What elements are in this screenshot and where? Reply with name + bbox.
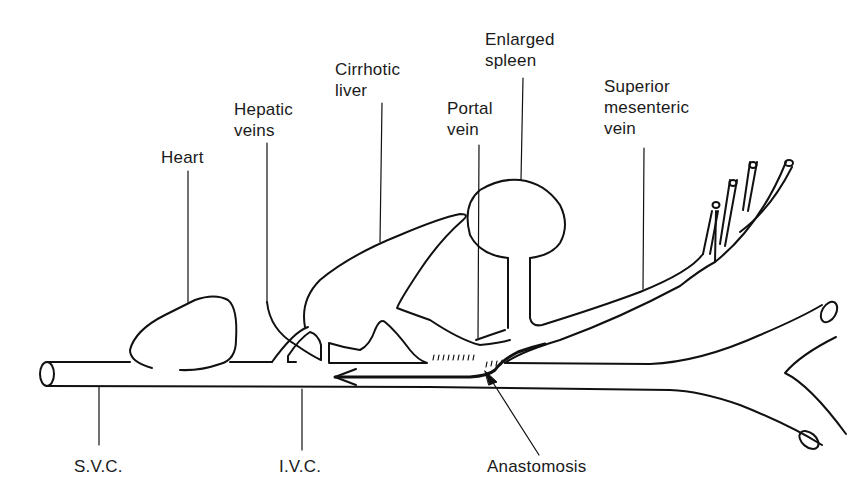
spleen-shape	[468, 180, 565, 258]
leader-lines	[99, 78, 644, 455]
leader-anastomosis	[490, 378, 539, 455]
leader-portal-vein	[478, 145, 479, 338]
hepatic-veins	[267, 302, 321, 362]
right-upper-opening	[817, 299, 840, 325]
heart-shape	[130, 297, 236, 371]
label-enlarged-spleen: Enlarged spleen	[485, 29, 555, 71]
label-portal-vein: Portal vein	[447, 98, 493, 140]
label-hepatic-veins: Hepatic veins	[234, 99, 293, 141]
anastomosis-hatching	[433, 355, 502, 367]
portal-hypertension-diagram: Heart Hepatic veins Cirrhotic liver Port…	[0, 0, 867, 502]
leader-spleen	[521, 78, 523, 180]
label-ivc: I.V.C.	[279, 456, 321, 477]
label-anastomosis: Anastomosis	[487, 456, 587, 477]
vena-cava-left-opening	[40, 362, 54, 386]
label-superior-mesenteric-vein: Superior mesenteric vein	[604, 76, 689, 139]
superior-mesenteric-vein	[505, 160, 793, 363]
leader-smv	[643, 148, 644, 289]
label-heart: Heart	[161, 147, 204, 168]
leader-liver	[380, 103, 382, 242]
label-cirrhotic-liver: Cirrhotic liver	[335, 59, 400, 101]
flow-arrow	[335, 344, 545, 385]
label-svc: S.V.C.	[74, 456, 123, 477]
diagram-drawing	[0, 0, 867, 502]
portal-vein	[476, 258, 640, 340]
